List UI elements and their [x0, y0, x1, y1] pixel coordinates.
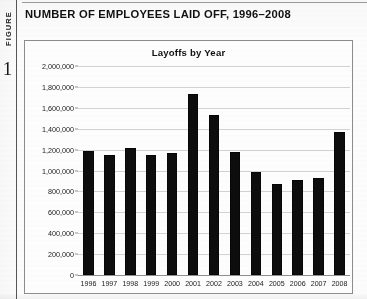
bar: [334, 132, 344, 275]
x-axis-label: 1997: [101, 280, 117, 288]
x-axis-label: 2000: [164, 280, 180, 288]
y-axis-label: 800,000: [48, 187, 74, 196]
bar: [209, 115, 219, 275]
x-axis-label: 2003: [227, 280, 243, 288]
y-axis-label: 1,000,000: [42, 166, 74, 175]
figure-number: 1: [0, 58, 15, 80]
bar: [188, 94, 198, 275]
y-axis-label: 1,400,000: [42, 124, 74, 133]
x-axis-label: 2006: [290, 280, 306, 288]
bar: [230, 152, 240, 275]
page-title: NUMBER OF EMPLOYEES LAID OFF, 1996–2008: [25, 8, 291, 20]
bar: [146, 155, 156, 275]
bar: [313, 178, 323, 275]
bar-series: 1996199719981999200020012002200320042005…: [78, 66, 350, 275]
bar: [83, 151, 93, 275]
y-axis-label: 1,200,000: [42, 145, 74, 154]
header-divider: [22, 2, 367, 3]
page-bottom-shadow: [0, 293, 367, 299]
bar: [104, 155, 114, 275]
bar: [125, 148, 135, 275]
y-axis-label: 200,000: [48, 250, 74, 259]
bar: [272, 184, 282, 275]
bar: [167, 153, 177, 275]
y-axis-label: 2,000,000: [42, 62, 74, 71]
gridline: [78, 275, 350, 276]
gutter-divider: [16, 0, 17, 299]
x-axis-label: 2001: [185, 280, 201, 288]
figure-label: FIGURE: [4, 0, 13, 59]
x-axis-label: 2008: [332, 280, 348, 288]
y-axis-label: 400,000: [48, 229, 74, 238]
y-axis-label: 600,000: [48, 208, 74, 217]
x-axis-label: 2004: [248, 280, 264, 288]
bar: [251, 172, 261, 275]
chart-title: Layoffs by Year: [25, 47, 352, 58]
chart-container: Layoffs by Year 0200,000400,000600,00080…: [24, 40, 353, 294]
x-axis-label: 1998: [122, 280, 138, 288]
scanned-page: FIGURE 1 NUMBER OF EMPLOYEES LAID OFF, 1…: [0, 0, 367, 299]
bar: [292, 180, 302, 275]
figure-gutter: FIGURE 1: [0, 0, 19, 299]
x-axis-label: 2005: [269, 280, 285, 288]
y-axis-label: 1,600,000: [42, 103, 74, 112]
x-axis-label: 2002: [206, 280, 222, 288]
x-axis-label: 1996: [81, 280, 97, 288]
x-axis-label: 1999: [143, 280, 159, 288]
y-axis-label: 1,800,000: [42, 82, 74, 91]
plot-area: 0200,000400,000600,000800,0001,000,0001,…: [78, 66, 350, 275]
x-axis-label: 2007: [311, 280, 327, 288]
y-axis-label: 0: [70, 271, 74, 280]
